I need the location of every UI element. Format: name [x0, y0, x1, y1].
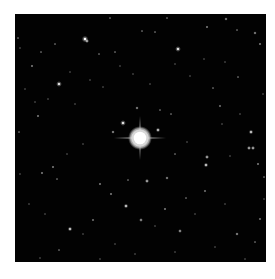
star — [187, 142, 188, 143]
star — [120, 66, 121, 67]
star — [222, 124, 223, 125]
star — [237, 76, 238, 77]
star — [86, 40, 88, 42]
star — [136, 107, 137, 108]
star — [204, 190, 205, 191]
star-field-image — [15, 14, 266, 262]
star — [206, 156, 208, 158]
star — [115, 244, 116, 245]
star — [166, 17, 167, 18]
star — [83, 234, 84, 235]
star — [83, 144, 84, 145]
star — [257, 163, 258, 164]
star — [190, 76, 191, 77]
star — [157, 129, 159, 131]
star — [245, 259, 246, 260]
page — [0, 0, 275, 279]
star — [175, 252, 176, 253]
star — [159, 109, 160, 110]
star — [58, 249, 59, 250]
star — [40, 258, 41, 259]
star — [114, 51, 115, 52]
star — [146, 180, 148, 182]
star — [56, 178, 57, 179]
star — [264, 199, 265, 200]
star — [240, 114, 241, 115]
star — [20, 48, 21, 49]
star — [230, 156, 231, 157]
star — [103, 87, 104, 88]
star — [98, 53, 99, 54]
star — [70, 72, 71, 73]
star — [37, 115, 38, 116]
star — [248, 147, 250, 149]
star — [250, 131, 252, 133]
star — [236, 29, 237, 30]
star — [259, 218, 260, 219]
star — [140, 219, 142, 221]
star — [150, 84, 151, 85]
star — [179, 230, 181, 232]
star — [41, 172, 42, 173]
star — [252, 147, 254, 149]
star — [164, 208, 165, 209]
star — [254, 241, 255, 242]
star — [99, 183, 100, 184]
star — [133, 74, 134, 75]
star — [40, 51, 41, 52]
star — [109, 17, 110, 18]
star — [45, 214, 46, 215]
star — [90, 80, 91, 81]
star — [125, 205, 127, 207]
star — [52, 166, 53, 167]
star — [35, 102, 36, 103]
star — [154, 31, 155, 32]
star — [177, 48, 179, 50]
star — [18, 131, 19, 132]
star — [75, 104, 76, 105]
star — [112, 131, 113, 132]
star — [185, 197, 186, 198]
star — [263, 94, 264, 95]
star — [110, 193, 111, 194]
star-field-canvas — [15, 14, 266, 262]
star — [155, 226, 156, 227]
star — [127, 179, 128, 180]
star — [166, 177, 167, 178]
star — [92, 219, 93, 220]
star — [263, 176, 264, 177]
star — [174, 153, 175, 154]
star — [204, 59, 205, 60]
star — [225, 62, 226, 63]
star — [69, 228, 71, 230]
star — [31, 65, 32, 66]
star — [225, 204, 226, 205]
star — [54, 43, 55, 44]
star — [236, 233, 237, 234]
star — [212, 87, 213, 88]
star — [17, 37, 18, 38]
star — [219, 105, 220, 106]
star — [141, 30, 142, 31]
star-core — [134, 132, 147, 145]
star — [100, 259, 101, 260]
star — [58, 83, 60, 85]
star — [48, 99, 49, 100]
star — [25, 89, 26, 90]
star — [215, 247, 216, 248]
star — [225, 18, 226, 19]
star — [205, 164, 207, 166]
star — [29, 204, 30, 205]
star — [67, 154, 68, 155]
star — [20, 174, 21, 175]
star — [122, 122, 124, 124]
star — [254, 32, 255, 33]
star — [206, 26, 207, 27]
star — [170, 113, 171, 114]
star — [135, 254, 136, 255]
star — [259, 43, 260, 44]
star — [195, 214, 196, 215]
star — [175, 64, 176, 65]
